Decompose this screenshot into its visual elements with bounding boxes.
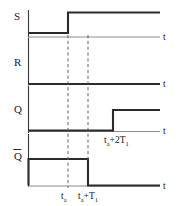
signal-label-r: R [14,56,22,68]
signal-row-r: R t [14,38,166,89]
signal-label-s: S [14,10,20,22]
ta2t1-sub-1: 1 [125,140,128,147]
signal-row-q: Q t ta+2T1 [14,86,166,147]
signal-label-qbar: Q [14,150,22,162]
timing-diagram: S t R t Q t ta+2T1 Q t [0,0,178,206]
ta-sub-a: a [64,196,67,203]
q-waveform [29,110,161,131]
time-marker-label-ta: ta [61,191,67,203]
qbar-waveform [29,159,161,186]
signal-label-q: Q [14,103,22,115]
time-marker-label-ta-plus-2t1: ta+2T1 [104,135,129,147]
s-waveform [29,13,161,34]
axis-label-s-t: t [163,32,166,42]
signal-row-s: S t [14,10,166,42]
tat1-sub-1: 1 [95,196,98,203]
ta2t1-plus: +2T [110,135,126,145]
time-marker-label-ta-plus-t1: ta+T1 [78,191,98,203]
axis-label-q-t: t [163,126,166,136]
axis-label-r-t: t [163,79,166,89]
signal-row-qbar: Q t [13,134,166,191]
tat1-plus: +T [84,191,95,201]
axis-label-qbar-t: t [163,181,166,191]
timing-diagram-svg: S t R t Q t ta+2T1 Q t [0,0,178,206]
